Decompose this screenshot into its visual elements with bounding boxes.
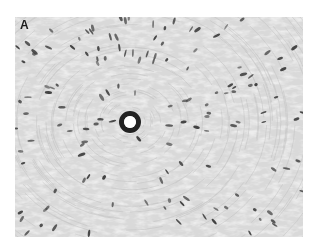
panel-label: A [20,19,29,31]
blood-vessel [122,114,139,131]
tissue-texture [15,17,303,237]
histology-image: A [15,17,303,237]
